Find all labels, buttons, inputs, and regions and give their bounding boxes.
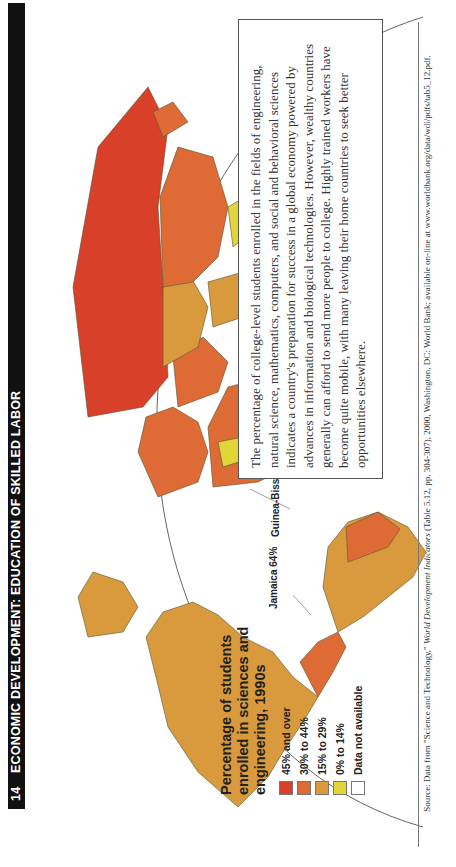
region-russia [73, 87, 168, 417]
page-number: 14 [9, 787, 23, 801]
legend-swatch [351, 781, 365, 795]
source-note: Source: Data from "Science and Technolog… [422, 0, 432, 867]
legend-item: 0% to 14% [332, 686, 348, 795]
page-title: ECONOMIC DEVELOPMENT: EDUCATION OF SKILL… [9, 391, 23, 773]
source-publication: World Development Indicators [422, 533, 432, 644]
legend-swatch [297, 781, 311, 795]
legend-item: Data not available [350, 686, 366, 795]
legend-label: 0% to 14% [334, 723, 346, 775]
legend-item: 30% to 44% [296, 686, 312, 795]
jamaica-leader [293, 595, 311, 615]
page-header: 14 ECONOMIC DEVELOPMENT: EDUCATION OF SK… [8, 3, 25, 809]
legend: 45% and over 30% to 44% 15% to 29% 0% to… [278, 686, 368, 795]
map-page: 14 ECONOMIC DEVELOPMENT: EDUCATION OF SK… [0, 0, 456, 867]
legend-label: Data not available [352, 686, 364, 775]
callout-jamaica: Jamaica 64% [268, 547, 279, 609]
source-suffix: (Table 5.12, pp. 304-307), 2000, Washing… [422, 55, 432, 533]
legend-swatch [333, 781, 347, 795]
legend-label: 15% to 29% [316, 717, 328, 775]
source-prefix: Source: Data from "Science and Technolog… [422, 644, 432, 812]
legend-swatch [315, 781, 329, 795]
legend-label: 45% and over [280, 707, 292, 775]
legend-item: 15% to 29% [314, 686, 330, 795]
legend-label: 30% to 44% [298, 717, 310, 775]
description-textbox: The percentage of college-level students… [238, 19, 383, 479]
region-china [160, 147, 228, 287]
legend-title: Percentage of students enrolled in scien… [218, 625, 269, 795]
region-greenland [78, 572, 138, 637]
region-europe [138, 407, 208, 497]
source-divider [418, 22, 419, 847]
legend-item: 45% and over [278, 686, 294, 795]
legend-swatch [279, 781, 293, 795]
